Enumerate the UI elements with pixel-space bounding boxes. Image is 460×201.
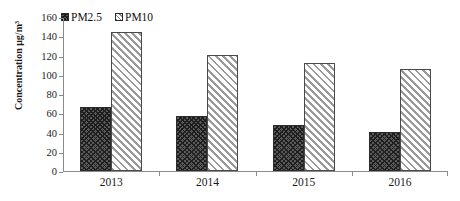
y-tick-mark [59,95,63,96]
y-tick-mark [59,172,63,173]
y-tick-label: 100 [29,71,57,82]
x-tick-label: 2013 [71,176,151,188]
y-axis-title: Concentration μg/m³ [13,0,24,136]
x-tick-mark [256,172,257,176]
y-tick-label: 60 [29,109,57,120]
x-tick-mark [447,172,448,176]
y-tick-label: 80 [29,90,57,101]
x-tick-mark [159,172,160,176]
plot-area: 160140120100806040200 2013201420152016 [63,18,448,172]
y-tick-mark [59,153,63,154]
y-tick-label: 140 [29,32,57,43]
y-tick-mark [59,18,63,19]
bar-pm25-2016 [369,132,400,171]
y-tick-label: 0 [29,167,57,178]
bar-pm10-2016 [400,69,431,171]
y-tick-mark [59,57,63,58]
y-tick-label: 20 [29,148,57,159]
bar-pm10-2014 [207,55,238,171]
x-tick-mark [352,172,353,176]
bar-chart: Concentration μg/m³ PM2.5 PM10 160140120… [0,0,460,201]
x-tick-label: 2015 [264,176,344,188]
x-tick-label: 2016 [360,176,440,188]
y-tick-mark [59,134,63,135]
y-tick-label: 40 [29,128,57,139]
bar-pm10-2015 [304,63,335,171]
y-tick-mark [59,37,63,38]
x-tick-label: 2014 [167,176,247,188]
y-tick-label: 120 [29,51,57,62]
bar-pm25-2014 [176,116,207,171]
y-tick-mark [59,114,63,115]
bar-pm25-2015 [273,125,304,171]
bar-pm25-2013 [80,107,111,171]
y-axis-line [63,18,64,172]
y-tick-mark [59,76,63,77]
y-tick-label: 160 [29,13,57,24]
bar-pm10-2013 [111,32,142,171]
